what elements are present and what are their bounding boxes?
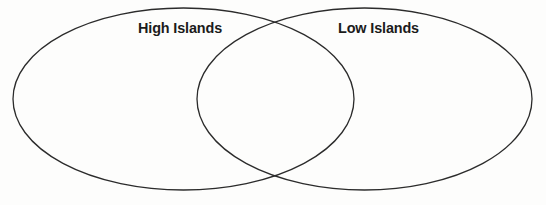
venn-label-low-islands: Low Islands bbox=[338, 20, 419, 36]
venn-label-high-islands: High Islands bbox=[138, 20, 222, 36]
venn-circles-group bbox=[0, 0, 546, 205]
venn-diagram-figure: High Islands Low Islands bbox=[0, 0, 546, 205]
